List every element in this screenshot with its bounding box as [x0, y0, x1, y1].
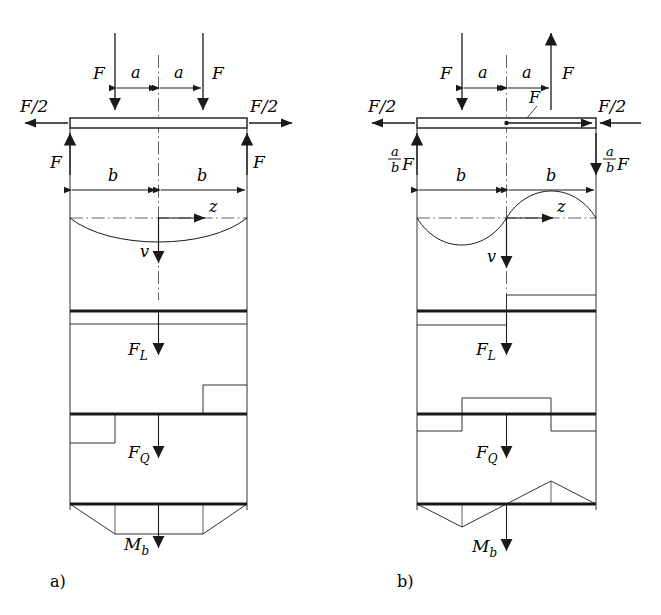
- panel-b-FL-diagram: FL: [417, 295, 596, 363]
- end-load-label-left: F/2: [367, 96, 396, 116]
- FQ-label: FQ: [475, 442, 498, 466]
- panel-a-Mb-diagram: Mb: [70, 504, 247, 558]
- reaction-label-left: a b F: [388, 144, 415, 175]
- panel-b-applied-loads: F F: [439, 33, 575, 110]
- reaction-left-denominator: b: [391, 160, 399, 175]
- reaction-left-factor: F: [401, 154, 415, 174]
- axial-leader-line: [527, 106, 537, 118]
- end-load-label-right: F/2: [249, 96, 278, 116]
- FL-label: FL: [127, 339, 148, 363]
- reaction-left-numerator: a: [391, 144, 399, 159]
- FL-label: FL: [475, 339, 496, 363]
- panel-b-reactions: a b F a b F: [388, 133, 630, 175]
- load-label-right: F: [211, 63, 225, 83]
- panel-b-FQ-diagram: FQ: [417, 398, 596, 466]
- reaction-label-right: F: [252, 152, 266, 172]
- reaction-right-denominator: b: [606, 160, 614, 175]
- panel-b-caption: b): [397, 572, 413, 591]
- reaction-right-factor: F: [616, 154, 630, 174]
- dim-b-right-label: b: [546, 166, 556, 185]
- dim-a-left-label: a: [131, 63, 141, 82]
- panel-a-caption: a): [50, 572, 66, 591]
- end-load-label-left: F/2: [19, 96, 48, 116]
- Mb-label: Mb: [471, 536, 497, 560]
- panel-b-z-label: z: [556, 197, 566, 216]
- panel-a-dimension-a: a a: [117, 63, 201, 88]
- dim-b-right-label: b: [197, 166, 207, 185]
- panel-a-FQ-diagram: FQ: [70, 385, 247, 466]
- panel-a-reactions: F F: [49, 133, 266, 175]
- panel-b-Mb-diagram: Mb: [417, 481, 596, 560]
- axial-label: F: [528, 88, 541, 107]
- dim-a-right-label: a: [174, 63, 184, 82]
- panel-b-v-label: v: [487, 247, 496, 266]
- dim-a-left-label: a: [478, 63, 488, 82]
- panel-a-z-label: z: [208, 197, 218, 216]
- dim-b-left-label: b: [456, 166, 466, 185]
- panel-a: F F a a F/2 F/2 F F: [19, 33, 292, 591]
- reaction-label-right: a b F: [603, 144, 630, 175]
- reaction-label-left: F: [49, 152, 63, 172]
- beam-diagram-figure: F F a a F/2 F/2 F F: [0, 0, 661, 615]
- Mb-label: Mb: [123, 534, 149, 558]
- load-label-left: F: [439, 63, 453, 83]
- panel-a-v-label: v: [140, 242, 149, 261]
- reaction-right-numerator: a: [606, 144, 614, 159]
- load-label-left: F: [92, 63, 106, 83]
- panel-a-beam: [70, 118, 247, 128]
- end-load-label-right: F/2: [597, 96, 626, 116]
- load-label-right: F: [561, 63, 575, 83]
- panel-b: F F a a F F/2 F/2: [367, 33, 641, 591]
- dim-b-left-label: b: [108, 166, 118, 185]
- FQ-label: FQ: [127, 442, 150, 466]
- beam-diagram-canvas: F F a a F/2 F/2 F F: [0, 0, 661, 615]
- dim-a-right-label: a: [522, 63, 532, 82]
- panel-a-FL-diagram: FL: [70, 311, 247, 363]
